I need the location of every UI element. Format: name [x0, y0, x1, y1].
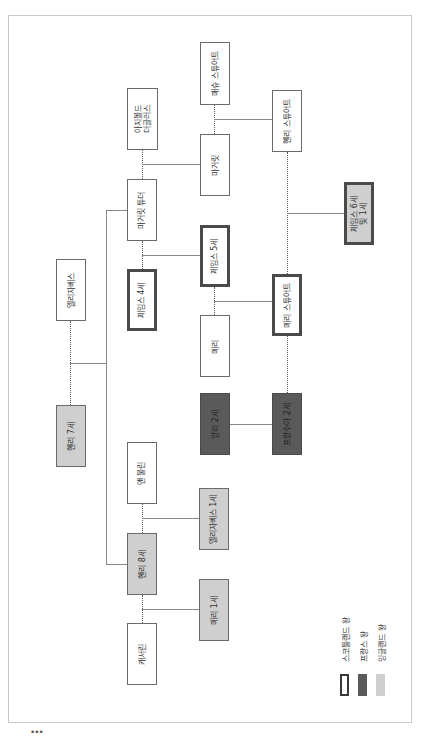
descent-line: [229, 424, 272, 425]
descent-line: [142, 609, 199, 610]
person-catherine: 캐서린: [127, 623, 157, 685]
person-margaret: 마거릿: [200, 134, 230, 196]
person-label: 캐서린: [138, 644, 147, 665]
person-mary-i: 메리 1세: [199, 579, 229, 641]
person-mary-stuart: 메리 스튜어트: [272, 274, 302, 336]
descent-line: [142, 255, 200, 256]
person-label: 엘리자베스 1세: [210, 494, 219, 544]
person-label: 엘리자베스: [67, 273, 76, 308]
person-label: 앤 불린: [137, 461, 146, 485]
person-james-v: 제임스 5세: [200, 225, 230, 287]
person-henry-vii: 헨리 7세: [56, 405, 86, 467]
person-label: 메리 스튜어트: [283, 283, 292, 328]
legend-label-scotland: 스코틀랜드 왕: [340, 617, 351, 662]
person-henri-ii: 앙리 2세: [200, 393, 230, 455]
person-label: 헨리 8세: [138, 550, 147, 579]
person-label: 헨리 7세: [67, 422, 76, 451]
descent-line: [106, 210, 107, 565]
person-mary-of-guise: 메리: [200, 315, 230, 377]
person-archibald-douglas: 아치볼드 더글러스: [127, 88, 158, 150]
legend-label-england: 잉글랜드 왕: [376, 624, 387, 662]
person-anne-boleyn: 앤 불린: [127, 442, 157, 504]
person-francois-ii: 프랑수아 2세: [272, 393, 302, 455]
person-label: 프랑수아 2세: [283, 403, 292, 446]
descent-line: [287, 213, 344, 214]
descent-line: [214, 119, 272, 120]
person-label: 마거릿: [211, 155, 220, 176]
person-james-vi-and-i: 제임스 6세 및 1세: [344, 182, 374, 245]
descent-line: [106, 210, 127, 211]
person-margaret-tudor: 마거릿 튜더: [127, 179, 157, 241]
person-henry-viii: 헨리 8세: [127, 533, 157, 595]
more-ellipsis[interactable]: •••: [30, 727, 43, 737]
legend-swatch-scotland: [340, 674, 349, 696]
legend-label-france: 프랑스 왕: [358, 631, 369, 662]
person-matthew-stewart: 매슈 스튜어트: [200, 42, 230, 105]
person-label: 메리 1세: [210, 596, 219, 625]
descent-line: [214, 301, 272, 302]
descent-line: [70, 363, 106, 364]
person-label: 메리: [211, 339, 220, 353]
person-henry-stuart: 헨리 스튜어트: [272, 90, 302, 152]
person-elizabeth-of-york: 엘리자베스: [56, 259, 86, 321]
legend-swatch-france: [358, 674, 367, 696]
descent-line: [106, 564, 127, 565]
person-label: 아치볼드 더글러스: [134, 105, 152, 133]
marriage-line: [287, 336, 288, 393]
person-label: 마거릿 튜더: [138, 191, 147, 229]
person-label: 제임스 5세: [211, 238, 220, 274]
descent-line: [142, 164, 200, 165]
descent-line: [142, 518, 199, 519]
person-label: 매슈 스튜어트: [211, 51, 220, 96]
person-elizabeth-i: 엘리자베스 1세: [199, 488, 229, 550]
person-label: 제임스 4세: [138, 282, 147, 318]
person-label: 헨리 스튜어트: [283, 99, 292, 144]
person-label: 앙리 2세: [211, 410, 220, 439]
legend-swatch-england: [376, 674, 385, 696]
person-james-iv: 제임스 4세: [127, 269, 157, 331]
person-label: 제임스 6세 및 1세: [350, 196, 368, 232]
